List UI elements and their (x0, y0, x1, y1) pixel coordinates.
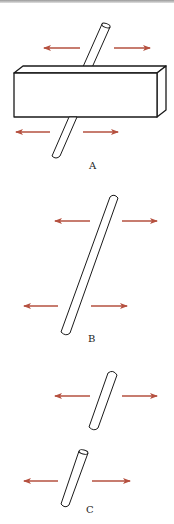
panel-a: A (14, 22, 166, 171)
rod-icon (52, 117, 77, 158)
rod-fragment-upper-icon (89, 371, 117, 429)
panel-label-b: B (88, 333, 95, 344)
rod-icon (82, 22, 111, 72)
rod-icon (61, 195, 118, 335)
panel-label-a: A (88, 160, 97, 171)
diagram-canvas: A B C (0, 0, 174, 524)
panel-b: B (24, 195, 157, 344)
panel-label-c: C (86, 504, 94, 515)
rod-fragment-lower-icon (61, 449, 88, 507)
block-icon (14, 66, 166, 117)
panel-c: C (24, 371, 157, 515)
